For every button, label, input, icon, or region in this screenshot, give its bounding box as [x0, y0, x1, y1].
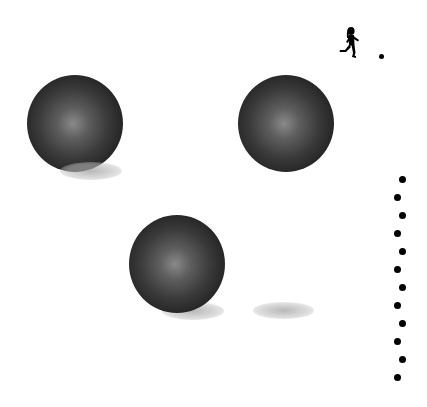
trail-dot — [399, 320, 406, 327]
trail-dot — [399, 212, 406, 219]
trail-dot — [399, 248, 406, 255]
running-person-icon[interactable] — [338, 26, 364, 60]
trail-dot — [399, 356, 406, 363]
sphere-1[interactable] — [27, 75, 123, 172]
loose-shadow — [253, 302, 314, 319]
game-stage[interactable] — [0, 0, 427, 407]
sphere-3[interactable] — [129, 215, 225, 313]
trail-dot — [399, 284, 406, 291]
sphere-1-shadow — [60, 162, 122, 180]
trail-dot — [394, 302, 401, 309]
trail-dot — [394, 338, 401, 345]
trail-dot — [394, 194, 401, 201]
sphere-2[interactable] — [238, 75, 334, 172]
trail-dot — [394, 230, 401, 237]
trail-dot — [394, 374, 401, 381]
trail-dot — [394, 266, 401, 273]
trail-dot — [399, 176, 406, 183]
goal-dot[interactable] — [379, 54, 384, 59]
